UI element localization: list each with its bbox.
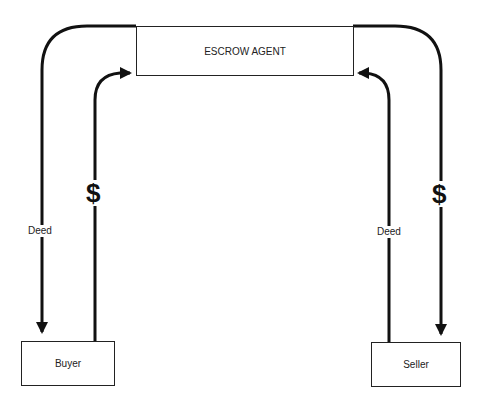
deed-label-right: Deed [376,226,402,238]
escrow-agent-box: ESCROW AGENT [136,26,354,76]
deed-from-seller-arrow [359,73,389,342]
seller-label: Seller [403,359,429,370]
dollar-label-right: $ [432,181,446,207]
seller-box: Seller [371,342,461,387]
dollar-label-left: $ [86,180,100,206]
escrow-agent-label: ESCROW AGENT [204,46,286,57]
buyer-label: Buyer [55,358,81,369]
money-from-buyer-arrow [95,73,130,341]
buyer-box: Buyer [21,341,115,386]
deed-label-left: Deed [27,225,53,237]
